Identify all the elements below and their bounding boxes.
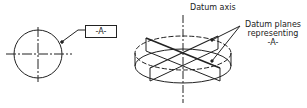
planes-label-line-2: representing xyxy=(245,29,301,38)
datum-tag: -A- xyxy=(85,25,117,38)
datum-planes-label: Datum planes representing -A- xyxy=(245,20,301,47)
datum-drawing xyxy=(0,0,307,108)
planes-label-line-1: Datum planes xyxy=(245,20,301,29)
leader-dot xyxy=(61,41,64,44)
leader-line xyxy=(63,30,85,41)
planes-label-line-3: -A- xyxy=(245,38,301,47)
disc-isometric xyxy=(135,15,240,103)
datum-axis-label: Datum axis xyxy=(190,3,236,12)
